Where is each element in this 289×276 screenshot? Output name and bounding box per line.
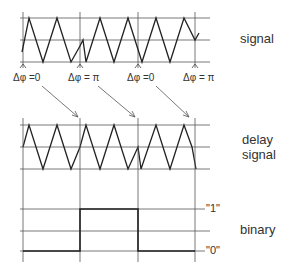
phase-label-0-second: Δφ =0 <box>127 72 154 83</box>
phase-label-pi-second: Δφ = π <box>183 72 214 83</box>
phase-label-pi: Δφ = π <box>68 72 99 83</box>
level-zero-label: "0" <box>206 244 220 256</box>
phase-label-0: Δφ =0 <box>13 72 40 83</box>
level-one-label: "1" <box>206 202 220 214</box>
binary-panel <box>20 209 210 251</box>
delay-arrows <box>42 86 189 117</box>
delay-label-line1: delay <box>242 132 276 147</box>
binary-label: binary <box>240 222 275 237</box>
binary-waveform <box>23 209 195 251</box>
phase-arrows <box>20 64 198 68</box>
delay-label-line2: signal <box>242 147 276 162</box>
signal-label: signal <box>240 31 274 46</box>
delay-signal-label: delay signal <box>242 132 276 162</box>
